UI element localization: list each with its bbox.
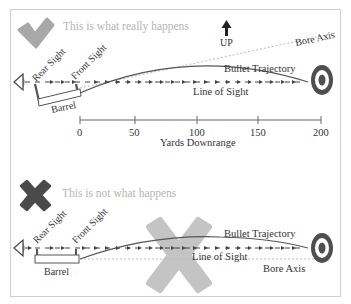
axis-title: Yards Downrange (160, 137, 236, 148)
check-mark-icon (19, 19, 53, 47)
bore-axis-label-bottom: Bore Axis (263, 263, 305, 274)
x-mark-icon (21, 181, 50, 210)
barrel (35, 255, 79, 263)
target-icon (311, 65, 333, 95)
eye-icon (14, 240, 25, 256)
rear-sight-label-bottom: Rear Sight (31, 207, 69, 245)
correct-panel: This is what really happens UP Bore Axis (14, 19, 336, 148)
line-of-sight-label: Line of Sight (193, 86, 248, 97)
diagram-canvas: This is what really happens UP Bore Axis (0, 0, 351, 304)
correct-caption: This is what really happens (63, 20, 189, 33)
incorrect-caption: This is not what happens (62, 187, 177, 200)
yards-axis (80, 116, 321, 124)
tick-150: 150 (250, 127, 266, 138)
up-label: UP (220, 37, 233, 48)
tick-0: 0 (77, 127, 82, 138)
up-arrow-icon (222, 20, 232, 36)
rifle (35, 249, 79, 263)
front-sight-label: Front Sight (69, 41, 109, 81)
incorrect-panel: This is not what happens Bore Axis Line … (14, 181, 333, 290)
bullet-trajectory-label: Bullet Trajectory (224, 63, 296, 74)
tick-200: 200 (313, 127, 329, 138)
front-sight-label-bottom: Front Sight (70, 205, 110, 245)
bullet-trajectory-label-bottom: Bullet Trajectory (224, 228, 296, 239)
rear-sight-label: Rear Sight (30, 45, 68, 83)
bore-axis-label: Bore Axis (294, 29, 336, 48)
line-of-sight-label-bottom: Line of Sight (192, 251, 247, 262)
tick-50: 50 (129, 127, 140, 138)
barrel-label-bottom: Barrel (44, 266, 69, 277)
eye-icon (14, 74, 25, 90)
target-icon (311, 233, 333, 263)
